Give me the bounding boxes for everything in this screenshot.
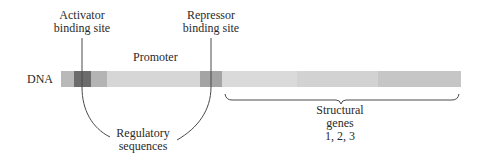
structural-genes-label: Structural genes 1, 2, 3: [310, 104, 370, 143]
dna-label: DNA: [27, 73, 53, 86]
regulatory-sequences-label: Regulatory sequences: [113, 127, 173, 153]
repressor-binding-site-label: Repressor binding site: [181, 9, 241, 35]
activator-binding-site-label: Activator binding site: [52, 9, 112, 35]
regulatory-arc-left: [82, 87, 110, 137]
regulatory-arc-right: [177, 87, 211, 140]
promoter-label: Promoter: [133, 51, 178, 64]
